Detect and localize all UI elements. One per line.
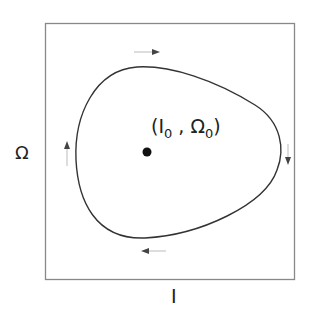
y-axis-label: Ω [15, 142, 29, 163]
plot-frame [46, 24, 295, 280]
arrow-left-icon [141, 248, 166, 254]
closed-orbit [76, 67, 281, 238]
separator: , [172, 115, 190, 137]
paren-close: ) [213, 115, 220, 137]
x-axis-label: I [171, 285, 177, 307]
arrow-down-icon [285, 144, 291, 165]
sub-omega: 0 [205, 126, 213, 141]
phase-diagram [0, 0, 311, 316]
fixed-point-label: (I0 , Ω0) [151, 115, 221, 141]
var-omega: Ω [190, 115, 205, 137]
arrow-right-icon [134, 49, 160, 55]
arrow-up-icon [64, 141, 70, 166]
fixed-point-dot [143, 148, 152, 157]
